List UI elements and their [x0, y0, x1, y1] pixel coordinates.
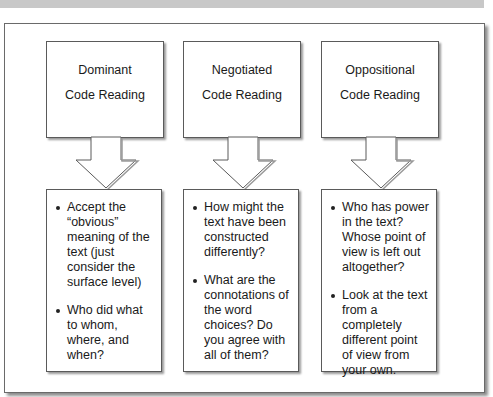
- bullet-item: Look at the text from a completely diffe…: [330, 288, 430, 378]
- bullet-item: Accept the “obvious” meaning of the text…: [55, 200, 155, 290]
- top-gray-band: [0, 0, 484, 8]
- bullet-icon: [193, 279, 197, 283]
- bullet-icon: [56, 206, 60, 210]
- diagram-frame: Dominant Code Reading Accept the “obviou…: [4, 23, 485, 393]
- bullet-item: Who has power in the text? Whose point o…: [330, 200, 430, 275]
- down-arrow-icon: [46, 24, 166, 194]
- bullet-icon: [56, 309, 60, 313]
- down-arrow-icon: [321, 24, 441, 194]
- bullet-item: How might the text have been constructed…: [192, 200, 292, 260]
- down-arrow-icon: [183, 24, 303, 194]
- bullet-item: Who did what to whom, where, and when?: [55, 303, 155, 363]
- bullet-icon: [331, 294, 335, 298]
- bullet-item: What are the connotations of the word ch…: [192, 273, 292, 363]
- dominant-description-box: Accept the “obvious” meaning of the text…: [46, 189, 162, 372]
- bullet-icon: [331, 206, 335, 210]
- negotiated-description-box: How might the text have been constructed…: [183, 189, 299, 372]
- oppositional-description-box: Who has power in the text? Whose point o…: [321, 189, 437, 372]
- bullet-icon: [193, 206, 197, 210]
